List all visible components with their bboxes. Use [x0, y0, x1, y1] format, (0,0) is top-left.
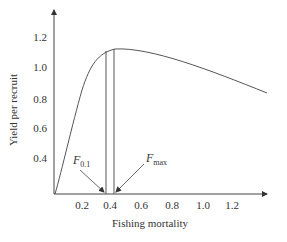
y-tick: 1.2: [33, 31, 47, 43]
f01-arrow: [80, 170, 104, 192]
y-tick: 0.4: [33, 152, 47, 164]
x-tick: 0.8: [165, 199, 179, 211]
yield-per-recruit-chart: 0.4 0.6 0.8 1.0 1.2 0.2 0.4 0.6 0.8 1.0 …: [0, 0, 287, 242]
y-tick: 0.6: [33, 122, 47, 134]
f01-label: F0.1: [72, 153, 90, 169]
x-tick: 1.0: [196, 199, 210, 211]
x-tick: 0.2: [75, 199, 89, 211]
yield-curve: [55, 49, 267, 194]
y-tick: 1.0: [33, 61, 47, 73]
fmax-label: Fmax: [145, 151, 167, 167]
x-tick: 1.2: [225, 199, 239, 211]
fmax-arrow: [116, 164, 144, 192]
y-axis-label: Yield per recruit: [7, 74, 19, 146]
y-tick: 0.8: [33, 93, 47, 105]
x-tick: 0.6: [134, 199, 148, 211]
x-axis-label: Fishing mortality: [112, 217, 189, 229]
x-tick: 0.4: [103, 199, 117, 211]
